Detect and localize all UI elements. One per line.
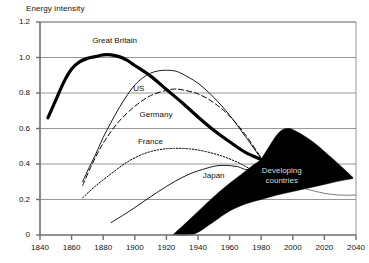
series-label-germany: Germany (140, 110, 173, 119)
y-tick-label: 0.2 (6, 195, 30, 204)
tick-marks (36, 22, 356, 240)
series-label-great-britain: Great Britain (92, 36, 137, 45)
series-label-japan: Japan (203, 171, 225, 180)
y-tick-label: 1.0 (6, 53, 30, 62)
y-tick-label: 0.6 (6, 124, 30, 133)
x-tick-label: 2040 (336, 243, 369, 252)
band-label-line: Developing (248, 166, 316, 176)
series-label-france: France (138, 137, 163, 146)
band-label-developing-countries: Developingcountries (248, 166, 316, 186)
series-label-us: US (133, 84, 144, 93)
y-tick-label: 0.8 (6, 88, 30, 97)
y-tick-label: 0 (6, 230, 30, 239)
band-label-line: countries (248, 176, 316, 186)
y-tick-label: 1.2 (6, 17, 30, 26)
plot-area (0, 0, 369, 263)
energy-intensity-chart: Energy intensity 00.20.40.60.81.01.2 184… (0, 0, 369, 263)
y-tick-label: 0.4 (6, 159, 30, 168)
gridlines (40, 22, 356, 235)
